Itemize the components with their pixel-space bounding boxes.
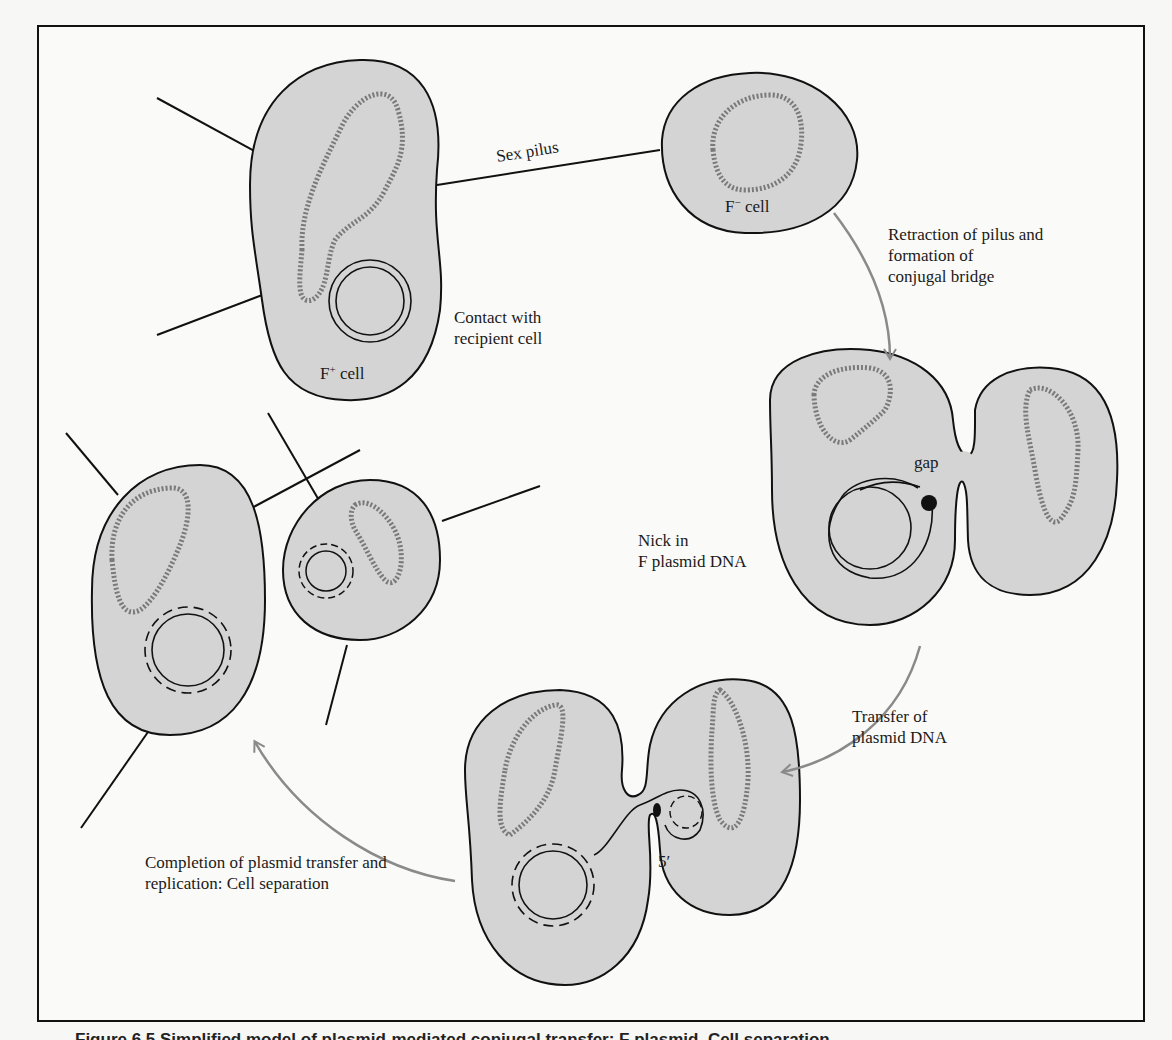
label-gap: gap <box>914 452 939 473</box>
arrow-retraction <box>834 213 890 358</box>
f-plus-cell <box>157 60 660 400</box>
label-transfer: Transfer of plasmid DNA <box>852 706 947 748</box>
label-completion: Completion of plasmid transfer and repli… <box>145 852 387 894</box>
label-contact: Contact with recipient cell <box>454 307 542 349</box>
figure-caption: Figure 6.5 Simplified model of plasmid-m… <box>75 1029 834 1040</box>
conjugal-pair-nick <box>770 349 1117 625</box>
label-f-minus-cell: F− cell <box>725 196 769 217</box>
conjugal-pair-transfer <box>465 679 800 985</box>
label-f-plus-cell: F+ cell <box>320 363 364 384</box>
label-retraction: Retraction of pilus and formation of con… <box>888 224 1043 287</box>
label-nick: Nick in F plasmid DNA <box>638 530 747 572</box>
label-five-prime: 5′ <box>658 851 670 872</box>
